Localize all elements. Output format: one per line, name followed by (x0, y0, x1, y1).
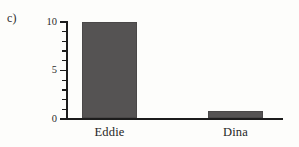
y-tick-major-10 (60, 21, 66, 22)
chart-figure: c) 10 5 0 Eddie Dina (0, 0, 299, 147)
y-tick-minor-4 (62, 80, 66, 81)
y-tick-minor-7 (62, 50, 66, 51)
x-category-label-eddie: Eddie (79, 126, 140, 139)
y-tick-label-0: 0 (31, 114, 57, 125)
y-tick-label-5: 5 (31, 65, 57, 76)
bar-dina[interactable] (208, 111, 264, 119)
bar-eddie[interactable] (82, 22, 138, 118)
y-axis-line (66, 21, 68, 120)
y-tick-major-0 (60, 118, 66, 119)
x-axis-line (66, 118, 283, 120)
y-tick-minor-6 (62, 60, 66, 61)
x-category-label-dina: Dina (205, 126, 266, 139)
y-tick-minor-2 (62, 99, 66, 100)
y-tick-minor-8 (62, 41, 66, 42)
y-tick-minor-1 (62, 109, 66, 110)
y-tick-minor-3 (62, 89, 66, 90)
y-tick-major-5 (60, 70, 66, 71)
y-tick-label-10: 10 (31, 17, 57, 28)
plot-area: 10 5 0 Eddie Dina (0, 0, 299, 147)
y-tick-minor-9 (62, 31, 66, 32)
